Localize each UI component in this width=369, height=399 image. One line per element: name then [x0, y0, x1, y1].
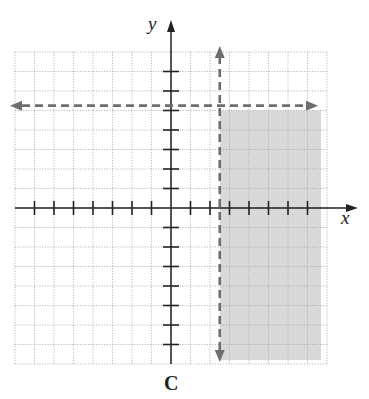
graph-caption: C [164, 372, 178, 394]
y-axis-arrow-icon [167, 20, 175, 32]
y-axis-label: y [146, 13, 157, 34]
shaded-region [220, 111, 321, 361]
shade-rect [220, 111, 321, 361]
arrow-right-icon [306, 101, 318, 111]
arrow-left-icon [10, 101, 22, 111]
x-axis-label: x [340, 207, 350, 228]
inequality-graph: y x C [0, 0, 369, 399]
